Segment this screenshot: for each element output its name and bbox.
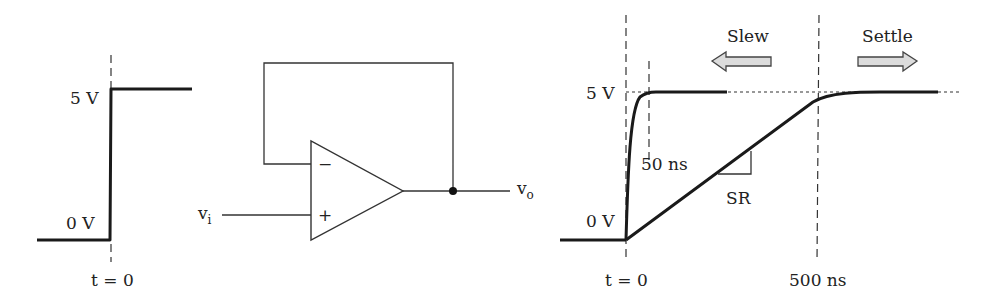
input-step-trace xyxy=(37,89,192,240)
output-response-panel: 5 V 0 V t = 0 50 ns 500 ns SR Slew Settl… xyxy=(560,15,960,290)
slew-label: Slew xyxy=(727,26,769,46)
slew-arrow-icon xyxy=(712,52,771,71)
input-time-label: t = 0 xyxy=(91,270,134,290)
slew-rate-label: SR xyxy=(726,188,752,208)
slew-rate-slope-triangle xyxy=(718,151,751,174)
input-step-panel: 5 V 0 V t = 0 xyxy=(37,55,192,290)
slew-end-marker xyxy=(817,15,819,262)
fast-time-label: 50 ns xyxy=(641,154,688,174)
input-low-label: 0 V xyxy=(66,213,95,233)
noninverting-input-symbol: + xyxy=(318,205,332,225)
opamp-step-response-diagram: 5 V 0 V t = 0 − + vi vo 5 V 0 V t = 0 5 xyxy=(0,0,991,307)
opamp-circuit: − + vi vo xyxy=(197,63,534,240)
slow-time-label: 500 ns xyxy=(789,270,847,290)
inverting-input-symbol: − xyxy=(318,154,332,174)
output-node-dot xyxy=(449,187,457,195)
output-t0-label: t = 0 xyxy=(605,270,648,290)
output-low-label: 0 V xyxy=(586,211,615,231)
settle-label: Settle xyxy=(862,26,913,46)
output-voltage-label: vo xyxy=(516,178,534,202)
output-high-label: 5 V xyxy=(586,83,615,103)
settle-arrow-icon xyxy=(858,52,917,71)
input-voltage-label: vi xyxy=(197,203,212,227)
input-high-label: 5 V xyxy=(70,88,99,108)
